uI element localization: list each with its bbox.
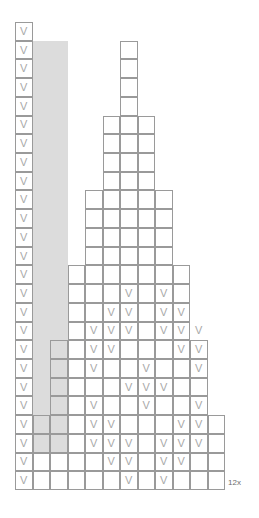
chart-cell[interactable] <box>15 434 33 453</box>
chart-cell[interactable] <box>103 172 121 191</box>
chart-cell[interactable] <box>120 153 138 172</box>
chart-cell[interactable] <box>68 322 86 341</box>
chart-cell[interactable] <box>15 453 33 472</box>
chart-cell[interactable] <box>33 434 51 453</box>
chart-cell[interactable] <box>120 471 138 490</box>
chart-cell[interactable] <box>85 209 103 228</box>
chart-cell[interactable] <box>120 415 138 434</box>
chart-cell[interactable] <box>103 359 121 378</box>
chart-cell[interactable] <box>103 303 121 322</box>
chart-cell[interactable] <box>155 190 173 209</box>
chart-cell[interactable] <box>103 228 121 247</box>
chart-cell[interactable] <box>103 415 121 434</box>
chart-cell[interactable] <box>103 116 121 135</box>
chart-cell[interactable] <box>120 453 138 472</box>
chart-cell[interactable] <box>120 303 138 322</box>
chart-cell[interactable] <box>68 396 86 415</box>
chart-cell[interactable] <box>155 471 173 490</box>
chart-cell[interactable] <box>120 190 138 209</box>
chart-cell[interactable] <box>120 116 138 135</box>
chart-cell[interactable] <box>103 265 121 284</box>
chart-cell[interactable] <box>85 322 103 341</box>
chart-cell[interactable] <box>155 378 173 397</box>
chart-cell[interactable] <box>138 209 156 228</box>
chart-cell[interactable] <box>103 134 121 153</box>
chart-cell[interactable] <box>103 340 121 359</box>
chart-cell[interactable] <box>138 116 156 135</box>
chart-cell[interactable] <box>120 340 138 359</box>
chart-cell[interactable] <box>85 471 103 490</box>
chart-cell[interactable] <box>85 247 103 266</box>
chart-cell[interactable] <box>103 247 121 266</box>
chart-cell[interactable] <box>173 396 191 415</box>
chart-cell[interactable] <box>138 471 156 490</box>
chart-cell[interactable] <box>120 359 138 378</box>
chart-cell[interactable] <box>190 359 208 378</box>
chart-cell[interactable] <box>15 22 33 41</box>
chart-cell[interactable] <box>68 434 86 453</box>
chart-cell[interactable] <box>68 359 86 378</box>
chart-cell[interactable] <box>85 228 103 247</box>
chart-cell[interactable] <box>190 396 208 415</box>
chart-cell[interactable] <box>155 340 173 359</box>
chart-cell[interactable] <box>208 415 226 434</box>
chart-cell[interactable] <box>15 359 33 378</box>
chart-cell[interactable] <box>190 340 208 359</box>
chart-cell[interactable] <box>103 322 121 341</box>
chart-cell[interactable] <box>15 116 33 135</box>
chart-cell[interactable] <box>155 303 173 322</box>
chart-cell[interactable] <box>173 359 191 378</box>
chart-cell[interactable] <box>120 59 138 78</box>
chart-cell[interactable] <box>15 303 33 322</box>
chart-cell[interactable] <box>50 434 68 453</box>
chart-cell[interactable] <box>138 415 156 434</box>
chart-cell[interactable] <box>15 172 33 191</box>
chart-cell[interactable] <box>15 59 33 78</box>
chart-cell[interactable] <box>15 78 33 97</box>
chart-cell[interactable] <box>173 453 191 472</box>
chart-cell[interactable] <box>120 172 138 191</box>
chart-cell[interactable] <box>173 303 191 322</box>
chart-cell[interactable] <box>103 396 121 415</box>
chart-cell[interactable] <box>138 247 156 266</box>
chart-cell[interactable] <box>173 322 191 341</box>
chart-cell[interactable] <box>208 453 226 472</box>
chart-cell[interactable] <box>15 228 33 247</box>
chart-cell[interactable] <box>120 265 138 284</box>
chart-cell[interactable] <box>68 284 86 303</box>
chart-cell[interactable] <box>190 471 208 490</box>
chart-cell[interactable] <box>68 415 86 434</box>
chart-cell[interactable] <box>15 134 33 153</box>
chart-cell[interactable] <box>68 378 86 397</box>
chart-cell[interactable] <box>190 415 208 434</box>
chart-cell[interactable] <box>103 434 121 453</box>
chart-cell[interactable] <box>138 153 156 172</box>
chart-cell[interactable] <box>173 471 191 490</box>
chart-cell[interactable] <box>33 471 51 490</box>
chart-cell[interactable] <box>85 434 103 453</box>
chart-cell[interactable] <box>50 453 68 472</box>
chart-cell[interactable] <box>15 41 33 60</box>
chart-cell[interactable] <box>138 172 156 191</box>
chart-cell[interactable] <box>103 209 121 228</box>
chart-cell[interactable] <box>85 453 103 472</box>
chart-cell[interactable] <box>50 415 68 434</box>
chart-cell[interactable] <box>68 453 86 472</box>
chart-cell[interactable] <box>155 359 173 378</box>
chart-cell[interactable] <box>155 228 173 247</box>
chart-cell[interactable] <box>33 453 51 472</box>
chart-cell[interactable] <box>120 97 138 116</box>
chart-cell[interactable] <box>120 434 138 453</box>
chart-cell[interactable] <box>138 134 156 153</box>
chart-cell[interactable] <box>50 359 68 378</box>
chart-cell[interactable] <box>85 415 103 434</box>
chart-cell[interactable] <box>15 322 33 341</box>
chart-cell[interactable] <box>85 265 103 284</box>
chart-cell[interactable] <box>138 378 156 397</box>
chart-cell[interactable] <box>190 453 208 472</box>
chart-cell[interactable] <box>138 396 156 415</box>
chart-cell[interactable] <box>15 396 33 415</box>
chart-grid[interactable]: VVVVVVVVVVVVVVVVVVVVVVVVVVVVVVVVVVVVVVVV… <box>0 0 259 518</box>
chart-cell[interactable] <box>15 153 33 172</box>
chart-cell[interactable] <box>173 284 191 303</box>
